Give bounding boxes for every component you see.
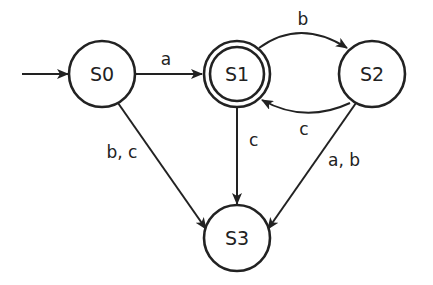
edge-s1-s2 xyxy=(259,33,347,48)
edge-label-s0-s1: a xyxy=(161,49,171,69)
edge-s0-s3 xyxy=(118,103,206,229)
edge-s2-s1 xyxy=(262,100,350,113)
state-diagram: a b, c b c c a, b S0 S1 S2 S3 xyxy=(0,0,433,285)
edge-label-s1-s2: b xyxy=(298,9,309,29)
state-label-s3: S3 xyxy=(225,227,249,249)
state-s3: S3 xyxy=(204,205,270,271)
edge-label-s0-s3: b, c xyxy=(107,142,138,162)
edge-label-s2-s3: a, b xyxy=(328,150,360,170)
state-s1-accepting: S1 xyxy=(204,41,270,107)
state-s2: S2 xyxy=(339,41,405,107)
state-s0: S0 xyxy=(69,41,135,107)
edge-label-s1-s3: c xyxy=(249,130,258,150)
edge-label-s2-s1: c xyxy=(299,119,308,139)
state-label-s1: S1 xyxy=(225,63,249,85)
state-label-s2: S2 xyxy=(360,63,384,85)
state-label-s0: S0 xyxy=(90,63,114,85)
